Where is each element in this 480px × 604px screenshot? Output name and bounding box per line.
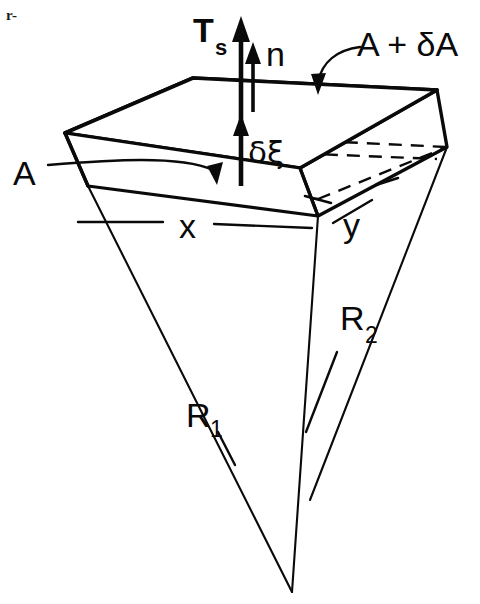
side-y-label: y xyxy=(343,206,360,244)
lower-area-label: A xyxy=(13,154,36,192)
surface-tension-arrowhead xyxy=(232,16,250,42)
normal-label: n xyxy=(266,35,285,73)
surface-tension-label-base: T xyxy=(193,11,214,49)
radius-lines-group xyxy=(88,147,447,592)
surface-tension-label: T s xyxy=(193,11,227,60)
thickness-label: δξ xyxy=(248,134,284,170)
radius-1-label-subscript: 1 xyxy=(210,416,223,442)
radius-1-label: R 1 xyxy=(186,396,223,442)
side-x-leader-right xyxy=(214,224,312,228)
radius-2-leader-group xyxy=(306,352,337,432)
wedge-surface-element-diagram: T s n A + δA A δξ x y R 1 R 2 xyxy=(0,0,480,604)
radius-2-label: R 2 xyxy=(340,299,378,348)
corner-annotation-text: r- xyxy=(6,7,17,24)
upper-area-label: A + δA xyxy=(357,25,458,63)
figure-root: r- xyxy=(0,0,480,604)
surface-tension-label-subscript: s xyxy=(215,35,227,60)
radius-2-leader xyxy=(306,352,337,432)
side-x-label: x xyxy=(179,207,196,245)
radius-1-label-base: R xyxy=(186,396,211,434)
normal-arrowhead xyxy=(245,42,261,64)
radius-line-left xyxy=(88,186,292,592)
radius-2-label-base: R xyxy=(340,299,365,337)
radius-line-right xyxy=(292,216,318,592)
radius-line-far-right xyxy=(310,147,447,500)
radius-2-label-subscript: 2 xyxy=(365,322,378,348)
